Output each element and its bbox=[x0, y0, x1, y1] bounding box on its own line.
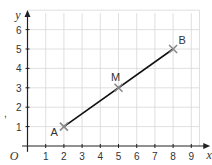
x-tick-label: 5 bbox=[116, 151, 122, 162]
point-label-b: B bbox=[178, 34, 185, 46]
point-label-m: M bbox=[111, 71, 120, 83]
chart: 123456789123456 Oxy,AMB bbox=[0, 0, 212, 165]
x-axis-label: x bbox=[206, 148, 212, 162]
ticks: 123456789123456 bbox=[16, 25, 195, 162]
x-tick-label: 2 bbox=[61, 151, 67, 162]
point-label-a: A bbox=[51, 126, 59, 138]
y-tick-label: 1 bbox=[16, 122, 22, 133]
y-tick-label: 2 bbox=[16, 102, 22, 113]
y-tick-label: 6 bbox=[16, 25, 22, 36]
y-tick-label: 5 bbox=[16, 44, 22, 55]
y-axis-arrow bbox=[25, 10, 31, 17]
margin-mark: , bbox=[4, 108, 7, 119]
x-tick-label: 6 bbox=[134, 151, 140, 162]
origin-label: O bbox=[10, 149, 19, 163]
labels: Oxy,AMB bbox=[4, 8, 212, 163]
x-tick-label: 9 bbox=[189, 151, 195, 162]
x-tick-label: 8 bbox=[170, 151, 176, 162]
y-tick-label: 3 bbox=[16, 83, 22, 94]
x-tick-label: 3 bbox=[79, 151, 85, 162]
x-tick-label: 1 bbox=[43, 151, 49, 162]
x-tick-label: 7 bbox=[152, 151, 158, 162]
x-tick-label: 4 bbox=[98, 151, 104, 162]
y-axis-label: y bbox=[14, 8, 21, 22]
y-tick-label: 4 bbox=[16, 63, 22, 74]
